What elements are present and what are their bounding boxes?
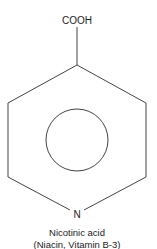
nitrogen-label: N — [73, 209, 80, 220]
nicotinic-acid-structure: COOH N Nicotinic acid (Niacin, Vitamin B… — [0, 0, 157, 249]
molecule-name: Nicotinic acid — [49, 227, 105, 238]
pyridine-ring — [8, 65, 146, 210]
cooh-label: COOH — [62, 15, 92, 26]
molecule-synonyms: (Niacin, Vitamin B-3) — [34, 239, 121, 249]
aromatic-circle — [46, 109, 108, 171]
